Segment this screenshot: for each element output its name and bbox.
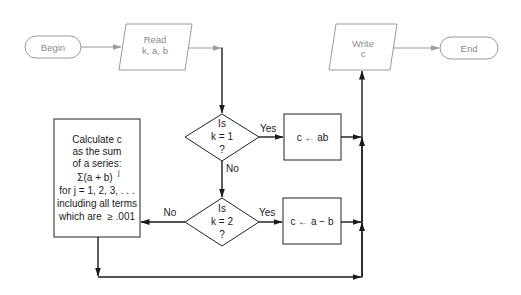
- calculate-series-box: Calculate c as the sum of a series: Σ(a …: [54, 119, 140, 237]
- decision2-no-label: No: [164, 207, 177, 218]
- assign2-label: c ← a − b: [290, 216, 334, 227]
- decision1-condition: k = 1: [211, 131, 233, 142]
- begin-terminal: Begin: [25, 36, 81, 58]
- read-variables: k, a, b: [142, 45, 168, 56]
- read-label: Read: [144, 34, 167, 45]
- flowchart-canvas: Begin Read k, a, b Is k = 1 ? Yes No c ←…: [0, 0, 521, 295]
- calc-line-including: including all terms: [57, 198, 137, 209]
- read-input-box: Read k, a, b: [119, 24, 192, 70]
- decision2-is: Is: [218, 203, 226, 214]
- assign1-label: c ← ab: [297, 132, 329, 143]
- decision-k-equals-2: Is k = 2 ?: [185, 198, 259, 246]
- calc-line-threshold: which are ≥ .001: [58, 211, 136, 222]
- decision2-yes-label: Yes: [259, 207, 275, 218]
- begin-label: Begin: [41, 42, 65, 53]
- write-output-box: Write c: [329, 24, 397, 70]
- end-label: End: [461, 43, 478, 54]
- decision1-no-label: No: [226, 163, 239, 174]
- calc-line-1: Calculate c: [72, 134, 121, 145]
- decision2-question: ?: [219, 229, 225, 240]
- calc-line-sum: Σ(a + b): [77, 172, 112, 183]
- decision1-is: Is: [218, 118, 226, 129]
- calc-exponent: j: [117, 169, 120, 177]
- write-variable: c: [361, 48, 366, 59]
- decision2-condition: k = 2: [211, 216, 233, 227]
- calc-line-2: as the sum: [73, 146, 122, 157]
- calc-line-range: for j = 1, 2, 3, . . .: [59, 185, 134, 196]
- end-terminal: End: [440, 37, 498, 59]
- assign-c-a-minus-b-box: c ← a − b: [283, 198, 341, 244]
- calc-line-3: of a series:: [73, 158, 122, 169]
- decision-k-equals-1: Is k = 1 ?: [185, 114, 259, 161]
- assign-c-ab-box: c ← ab: [284, 114, 341, 160]
- decision1-question: ?: [219, 144, 225, 155]
- decision1-yes-label: Yes: [260, 123, 276, 134]
